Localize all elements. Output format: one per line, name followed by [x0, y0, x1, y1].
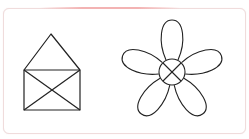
drawing-canvas — [0, 0, 249, 139]
house-roof — [24, 34, 80, 70]
house-drawing — [24, 34, 80, 110]
flower-petal-right — [180, 46, 225, 79]
flower-petal-top — [161, 20, 183, 60]
flower-petal-left — [119, 46, 164, 79]
flower-drawing — [119, 20, 225, 120]
